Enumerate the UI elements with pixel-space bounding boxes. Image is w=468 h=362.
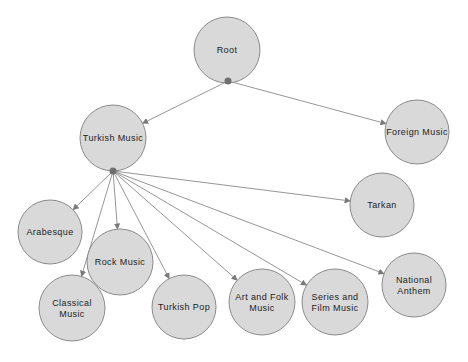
node-label: Classical (52, 298, 92, 308)
node-root: Root (194, 17, 260, 83)
node-turkishpop: Turkish Pop (152, 275, 216, 339)
junction-dot (110, 168, 117, 175)
node-rock: Rock Music (87, 229, 153, 295)
node-label: Music (59, 309, 85, 319)
node-artfolk: Art and FolkMusic (229, 269, 295, 335)
node-arabesque: Arabesque (18, 200, 82, 264)
node-tarkan: Tarkan (350, 173, 414, 237)
edge-to-turkish (143, 81, 228, 123)
node-label: Rock Music (95, 257, 146, 267)
node-label: Art and Folk (235, 292, 288, 302)
tree-diagram: RootTurkish MusicForeign MusicTarkanArab… (0, 0, 468, 362)
node-label: Tarkan (367, 200, 396, 210)
node-series: Series andFilm Music (302, 269, 368, 335)
node-label: Turkish Pop (158, 302, 210, 312)
node-label: Arabesque (26, 227, 73, 237)
node-label: Root (217, 45, 238, 55)
edge-to-rock (113, 171, 117, 229)
node-anthem: NationalAnthem (382, 253, 446, 317)
node-label: Film Music (312, 303, 359, 313)
edge-to-anthem (113, 171, 384, 274)
node-turkish: Turkish Music (80, 105, 146, 171)
junction-dot (225, 78, 232, 85)
node-label: Foreign Music (386, 127, 448, 137)
edge-to-tarkan (113, 171, 350, 201)
node-label: Series and (311, 292, 358, 302)
node-label: Anthem (397, 286, 430, 296)
nodes: RootTurkish MusicForeign MusicTarkanArab… (18, 17, 449, 341)
node-foreign: Foreign Music (385, 100, 449, 164)
node-label: National (396, 275, 432, 285)
node-classical: ClassicalMusic (39, 275, 105, 341)
node-label: Turkish Music (83, 133, 143, 143)
node-label: Music (249, 303, 275, 313)
edge-to-foreign (228, 81, 386, 124)
